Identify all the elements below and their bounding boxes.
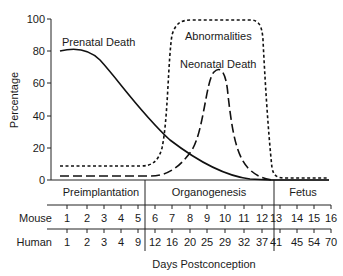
mouse-tick-labels: 1 2 3 4 5 6 7 8 9 10 11 12 13 14 15 16 (64, 212, 337, 224)
svg-text:1: 1 (64, 236, 70, 248)
svg-text:15: 15 (308, 212, 320, 224)
svg-text:Organogenesis: Organogenesis (172, 186, 247, 198)
svg-text:7: 7 (169, 212, 175, 224)
svg-text:12: 12 (149, 236, 161, 248)
svg-text:70: 70 (325, 236, 337, 248)
svg-text:37: 37 (256, 236, 268, 248)
mouse-row-label: Mouse (19, 212, 52, 224)
svg-text:16: 16 (166, 236, 178, 248)
svg-text:Preimplantation: Preimplantation (63, 186, 139, 198)
svg-text:5: 5 (135, 212, 141, 224)
human-ticks (67, 229, 331, 233)
svg-text:4: 4 (118, 236, 124, 248)
svg-text:20: 20 (184, 236, 196, 248)
svg-text:Prenatal Death: Prenatal Death (62, 36, 135, 48)
mouse-ticks (67, 205, 331, 209)
y-tick-labels: 100 80 60 40 20 0 (27, 13, 45, 186)
svg-text:32: 32 (238, 236, 250, 248)
svg-text:Abnormalities: Abnormalities (185, 30, 252, 42)
svg-text:1: 1 (64, 212, 70, 224)
svg-text:3: 3 (101, 236, 107, 248)
period-labels: Preimplantation Organogenesis Fetus (63, 186, 317, 198)
svg-text:Neonatal Death: Neonatal Death (180, 58, 256, 70)
svg-text:20: 20 (33, 142, 45, 154)
svg-text:Fetus: Fetus (289, 186, 317, 198)
svg-text:14: 14 (291, 212, 303, 224)
svg-text:11: 11 (238, 212, 249, 224)
svg-text:0: 0 (39, 174, 45, 186)
svg-text:10: 10 (219, 212, 231, 224)
svg-text:80: 80 (33, 45, 45, 57)
svg-text:45: 45 (291, 236, 303, 248)
svg-text:8: 8 (187, 212, 193, 224)
x-axis-label: Days Postconception (152, 258, 255, 270)
svg-text:6: 6 (152, 212, 158, 224)
svg-text:54: 54 (308, 236, 320, 248)
y-ticks (47, 19, 51, 148)
svg-text:3: 3 (101, 212, 107, 224)
chart: 100 80 60 40 20 0 Percentage Preimplanta… (0, 0, 343, 276)
y-axis-label: Percentage (8, 72, 20, 128)
svg-text:9: 9 (135, 236, 141, 248)
svg-text:2: 2 (84, 236, 90, 248)
svg-text:13: 13 (270, 212, 282, 224)
svg-text:2: 2 (84, 212, 90, 224)
svg-text:40: 40 (33, 110, 45, 122)
svg-text:16: 16 (325, 212, 337, 224)
series-annotations: Prenatal Death Abnormalities Neonatal De… (62, 30, 256, 70)
human-tick-labels: 1 2 3 4 9 12 16 20 25 29 32 37 41 45 54 … (64, 236, 337, 248)
svg-text:41: 41 (270, 236, 282, 248)
svg-text:100: 100 (27, 13, 45, 25)
svg-text:12: 12 (256, 212, 268, 224)
human-row-label: Human (17, 236, 52, 248)
svg-text:9: 9 (204, 212, 210, 224)
svg-text:25: 25 (201, 236, 213, 248)
svg-text:60: 60 (33, 77, 45, 89)
svg-text:29: 29 (219, 236, 231, 248)
svg-text:4: 4 (118, 212, 124, 224)
